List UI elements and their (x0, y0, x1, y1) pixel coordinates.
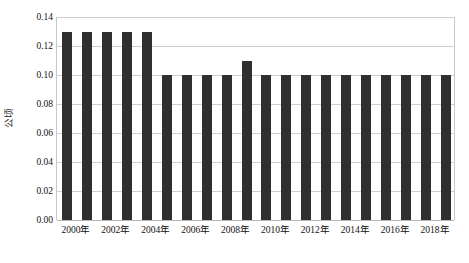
bar (441, 75, 451, 220)
bar (242, 61, 252, 221)
bar (301, 75, 311, 220)
y-axis-tick-label: 0.08 (19, 99, 53, 109)
x-axis-tick-labels: 2000年2002年2004年2006年2008年2010年2012年2014年… (56, 222, 455, 242)
x-axis-tick-label: 2006年 (181, 224, 210, 236)
bar (341, 75, 351, 220)
y-axis-tick-label: 0.04 (19, 157, 53, 167)
bar (421, 75, 431, 220)
y-axis-title-label: 公顷 (4, 108, 14, 128)
bar (202, 75, 212, 220)
bars-layer (57, 17, 454, 220)
bar (162, 75, 172, 220)
y-axis-tick-label: 0.00 (19, 215, 53, 225)
bar (62, 32, 72, 221)
x-axis-tick-label: 2002年 (101, 224, 130, 236)
x-axis-tick-label: 2010年 (261, 224, 290, 236)
y-axis-tick-label: 0.06 (19, 128, 53, 138)
x-axis-tick-label: 2012年 (301, 224, 330, 236)
x-axis-tick-label: 2000年 (61, 224, 90, 236)
y-axis-tick-label: 0.14 (19, 12, 53, 22)
bar (261, 75, 271, 220)
gridline (57, 220, 454, 221)
y-axis-title: 公顷 (0, 88, 18, 148)
x-axis-tick-label: 2008年 (221, 224, 250, 236)
bar (281, 75, 291, 220)
bar (102, 32, 112, 221)
x-axis-tick-label: 2018年 (421, 224, 450, 236)
bar (222, 75, 232, 220)
bar (321, 75, 331, 220)
bar (182, 75, 192, 220)
y-axis-tick-label: 0.02 (19, 186, 53, 196)
y-axis-tick-label: 0.12 (19, 41, 53, 51)
x-axis-tick-label: 2004年 (141, 224, 170, 236)
y-axis-tick-labels: 0.000.020.040.060.080.100.120.14 (18, 10, 56, 226)
plot-area (56, 17, 455, 220)
y-axis-tick-label: 0.10 (19, 70, 53, 80)
bar (361, 75, 371, 220)
bar (381, 75, 391, 220)
bar (142, 32, 152, 221)
bar (122, 32, 132, 221)
x-axis-tick-label: 2014年 (341, 224, 370, 236)
x-axis-tick-label: 2016年 (381, 224, 410, 236)
bar (401, 75, 411, 220)
bar-chart: 公顷 0.000.020.040.060.080.100.120.14 2000… (0, 0, 469, 263)
bar (82, 32, 92, 221)
